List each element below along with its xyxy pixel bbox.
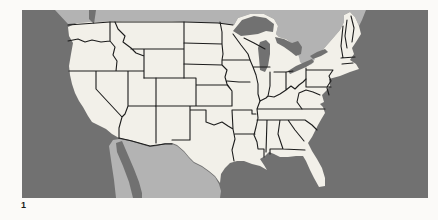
page: { "figure": { "label": "1", "description… — [0, 0, 438, 220]
us-map-svg — [22, 10, 428, 198]
figure-number-label: 1 — [21, 201, 26, 210]
us-map-figure — [22, 10, 428, 198]
